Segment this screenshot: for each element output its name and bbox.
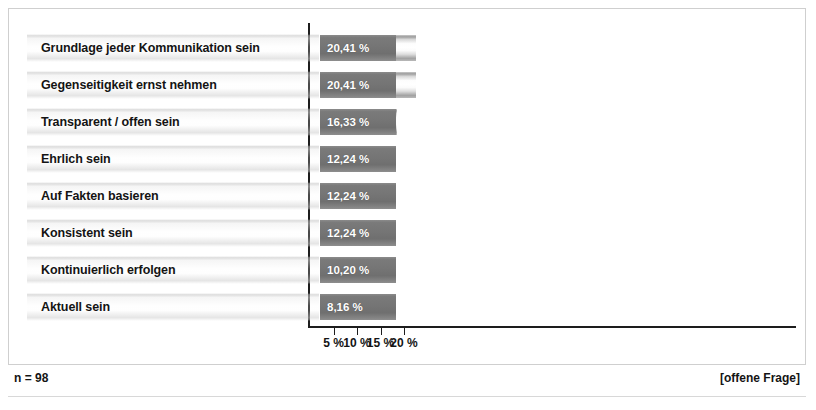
bar-fill [396, 35, 416, 61]
bar-value-box: 20,41 % [320, 35, 396, 61]
category-label: Gegenseitigkeit ernst nehmen [41, 70, 217, 100]
bar-fill [396, 109, 397, 135]
bar: 20,41 % [320, 35, 416, 61]
bar-value-box: 20,41 % [320, 72, 396, 98]
question-type-note: [offene Frage] [720, 371, 800, 385]
sample-size-note: n = 98 [14, 371, 48, 385]
bar: 10,20 % [320, 257, 368, 283]
category-label: Kontinuierlich erfolgen [41, 255, 176, 285]
scan-edge-line [8, 396, 806, 397]
category-label: Konsistent sein [41, 218, 133, 248]
category-label: Aktuell sein [41, 292, 110, 322]
bar: 12,24 % [320, 220, 378, 246]
bar-value-label: 20,41 % [327, 35, 369, 61]
bar-value-label: 10,20 % [327, 257, 369, 283]
axis-tick-label: 20 % [374, 336, 434, 350]
bar-row: Kontinuierlich erfolgen10,20 % [19, 255, 799, 285]
bar-fill [396, 72, 416, 98]
bar-rows: Grundlage jeder Kommunikation sein20,41 … [9, 9, 807, 329]
bar-value-box: 8,16 % [320, 294, 396, 320]
bar: 20,41 % [320, 72, 416, 98]
bar-value-box: 12,24 % [320, 183, 396, 209]
chart-frame: Grundlage jeder Kommunikation sein20,41 … [8, 8, 806, 365]
bar-row: Aktuell sein8,16 % [19, 292, 799, 322]
bar-value-label: 12,24 % [327, 220, 369, 246]
bar: 16,33 % [320, 109, 397, 135]
axis-tick [334, 328, 335, 335]
bar: 8,16 % [320, 294, 358, 320]
bar-value-box: 16,33 % [320, 109, 396, 135]
bar: 12,24 % [320, 183, 378, 209]
bar-value-label: 8,16 % [327, 294, 363, 320]
bar-row: Auf Fakten basieren12,24 % [19, 181, 799, 211]
bar-value-label: 12,24 % [327, 146, 369, 172]
bar-chart-plot-area: Grundlage jeder Kommunikation sein20,41 … [9, 9, 807, 366]
bar-value-box: 12,24 % [320, 220, 396, 246]
category-label: Transparent / offen sein [41, 107, 180, 137]
axis-tick [357, 328, 358, 335]
bar-value-box: 10,20 % [320, 257, 396, 283]
axis-tick [381, 328, 382, 335]
bar: 12,24 % [320, 146, 378, 172]
bar-row: Transparent / offen sein16,33 % [19, 107, 799, 137]
bar-row: Grundlage jeder Kommunikation sein20,41 … [19, 33, 799, 63]
bar-row: Ehrlich sein12,24 % [19, 144, 799, 174]
axis-tick [404, 328, 405, 335]
bar-row: Gegenseitigkeit ernst nehmen20,41 % [19, 70, 799, 100]
bar-row: Konsistent sein12,24 % [19, 218, 799, 248]
category-label: Ehrlich sein [41, 144, 111, 174]
bar-value-label: 20,41 % [327, 72, 369, 98]
bar-value-box: 12,24 % [320, 146, 396, 172]
category-label: Auf Fakten basieren [41, 181, 159, 211]
bar-value-label: 16,33 % [327, 109, 369, 135]
category-label: Grundlage jeder Kommunikation sein [41, 33, 260, 63]
bar-value-label: 12,24 % [327, 183, 369, 209]
